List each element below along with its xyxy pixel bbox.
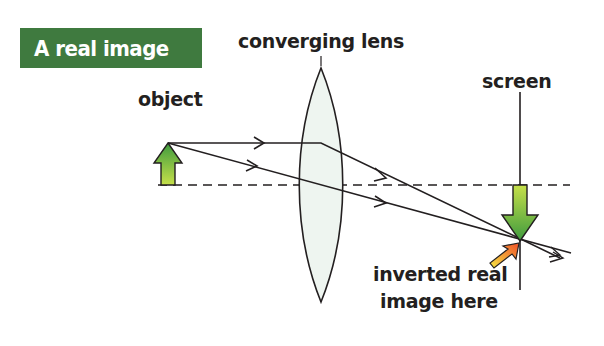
parallel-ray [168,143,560,258]
object-arrow-icon [154,143,182,185]
central-ray [168,143,571,253]
pointer-arrow-icon [490,243,519,268]
ray-diagram [0,0,604,346]
